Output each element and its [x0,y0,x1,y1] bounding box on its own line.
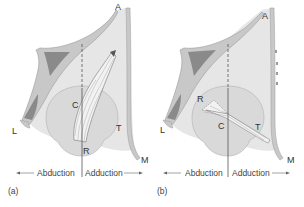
arrow-left-icon [16,172,20,175]
adduction-label: Adduction [232,168,270,178]
label-R: R [83,146,90,156]
abduction-label: Abduction [37,168,75,178]
panel-label-b: (b) [157,186,168,196]
panel-label-a: (a) [8,186,19,196]
label-T: T [255,122,261,132]
medial-wall-nodules [275,50,278,85]
anatomy-figure: A C R T L M Abduction Adduction (a) [0,0,304,207]
arrow-right-icon [286,172,290,175]
label-R: R [197,94,204,104]
arrow-left-icon [163,172,167,175]
label-C: C [72,100,79,110]
label-M: M [287,155,295,165]
direction-axis-b: Abduction Adduction [163,168,290,178]
label-A: A [115,2,121,12]
label-A: A [262,11,268,21]
arrow-right-icon [139,172,143,175]
panel-a: A C R T L M Abduction Adduction (a) [8,2,149,196]
panel-b: A C R T L M Abduction Adduction (b) [157,8,295,196]
abduction-label: Abduction [185,168,223,178]
label-L: L [160,125,165,135]
label-C: C [218,121,225,131]
direction-axis-a: Abduction Adduction [16,168,143,178]
label-T: T [116,123,122,133]
adduction-label: Adduction [85,168,123,178]
label-M: M [141,155,149,165]
label-L: L [12,126,17,136]
